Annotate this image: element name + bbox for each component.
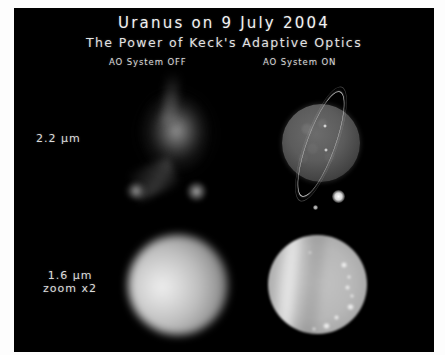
cloud-feature	[312, 327, 316, 331]
moon-faint-3	[324, 148, 328, 152]
moon-bright	[332, 190, 345, 203]
cloud-feature	[308, 251, 312, 254]
row-label-1600nm-zoom: zoom x2	[30, 282, 110, 295]
figure-root: Uranus on 9 July 2004 The Power of Keck'…	[0, 0, 445, 355]
cloud-feature	[350, 294, 354, 298]
row-label-1600nm-wavelength: 1.6 μm	[30, 269, 110, 282]
uranus-disk-blurred	[128, 235, 228, 335]
row-label-1600nm: 1.6 μm zoom x2	[30, 269, 110, 296]
cloud-feature	[347, 275, 351, 279]
speckle-knot	[126, 182, 146, 200]
panel-uranus-1600nm-ao-off	[126, 233, 236, 343]
cloud-feature	[345, 285, 350, 290]
cloud-feature	[341, 262, 347, 268]
astronomy-image-panel: Uranus on 9 July 2004 The Power of Keck'…	[14, 8, 434, 352]
moon-blurred	[187, 182, 206, 201]
moon-faint-2	[323, 124, 327, 128]
cloud-feature	[334, 315, 339, 320]
row-label-2200nm: 2.2 μm	[36, 132, 81, 145]
panel-uranus-2200nm-ao-off	[118, 86, 248, 216]
cloud-feature	[347, 304, 354, 310]
moon-faint-1	[313, 205, 318, 210]
panel-uranus-1600nm-ao-on	[266, 233, 376, 343]
uranus-disk-banded	[268, 235, 367, 334]
panel-uranus-2200nm-ao-on	[260, 86, 400, 218]
column-header-ao-off: AO System OFF	[109, 57, 187, 67]
column-header-ao-on: AO System ON	[263, 57, 336, 67]
figure-title: Uranus on 9 July 2004	[14, 14, 434, 32]
cloud-feature	[323, 323, 330, 329]
figure-subtitle: The Power of Keck's Adaptive Optics	[14, 35, 434, 50]
